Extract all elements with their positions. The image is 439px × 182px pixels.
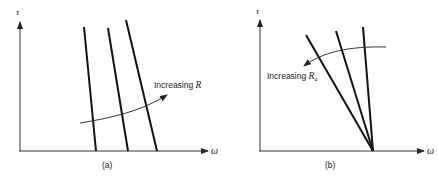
torque-speed-line-1: [84, 27, 96, 151]
torque-speed-line-2: [108, 28, 128, 151]
x-axis-label: ω: [427, 145, 434, 156]
annotation-increasing-r: Increasing R: [154, 80, 202, 90]
caption-a: (a): [102, 160, 113, 170]
torque-speed-line-1: [306, 35, 373, 151]
caption-b: (b): [325, 160, 336, 170]
annotation-increasing-ra: Increasing Ra: [267, 71, 317, 82]
panel-b: τ ω Increasing Ra (b): [256, 6, 434, 170]
y-axis-label: τ: [16, 7, 20, 17]
figure-canvas: τ ω Increasing R (a) τ ω Increasing Ra (…: [0, 0, 439, 182]
y-axis-label: τ: [256, 6, 260, 16]
torque-speed-line-3: [126, 20, 157, 151]
panel-a: τ ω Increasing R (a): [16, 7, 218, 170]
x-axis-label: ω: [211, 145, 218, 156]
